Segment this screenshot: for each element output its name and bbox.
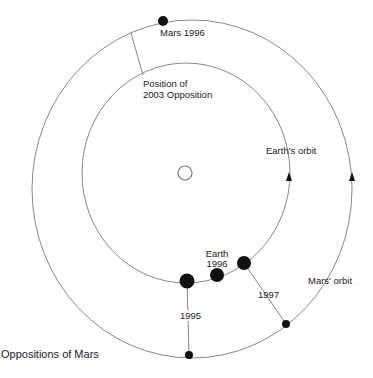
diagram-title: Oppositions of Mars xyxy=(1,348,99,360)
position-2003-label-line2: 2003 Opposition xyxy=(143,89,212,100)
opposition-2003-line xyxy=(131,33,143,75)
mars-orbit-arrow-icon xyxy=(349,172,355,181)
position-2003-label-line1: Position of xyxy=(143,78,187,89)
year-1995-label: 1995 xyxy=(179,310,202,321)
mars-orbit xyxy=(32,20,352,358)
orbit-diagram xyxy=(0,0,373,378)
mars-orbit-label: Mars' orbit xyxy=(308,275,352,286)
earth-1996-dot xyxy=(210,268,224,282)
year-1997-label: 1997 xyxy=(258,289,279,300)
sun-icon xyxy=(178,166,192,180)
mars-1997-dot xyxy=(282,320,290,328)
mars-1996-label: Mars 1996 xyxy=(160,27,205,38)
earth-1995-dot xyxy=(180,274,195,289)
mars-1995-dot xyxy=(185,351,193,359)
earth-orbit-label: Earth's orbit xyxy=(266,145,316,156)
mars-1996-dot xyxy=(158,16,168,26)
earth-orbit-arrow-icon xyxy=(286,172,292,181)
earth-1996-label-line2: 1996 xyxy=(203,258,231,269)
earth-1997-dot xyxy=(237,256,251,270)
